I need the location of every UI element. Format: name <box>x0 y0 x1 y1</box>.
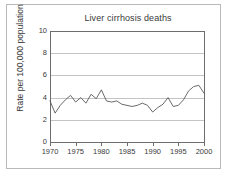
x-tick-mark <box>50 143 51 146</box>
y-tick-label: 6 <box>35 71 47 79</box>
data-series-plot <box>50 31 205 143</box>
x-axis-tick-labels: 1970197519801985199019952000 <box>50 147 205 159</box>
x-tick-mark <box>178 143 179 146</box>
plot-area <box>50 31 205 143</box>
y-tick-label: 2 <box>35 116 47 124</box>
x-tick-label: 2000 <box>191 147 217 156</box>
y-axis-tick-labels: 0246810 <box>33 31 47 143</box>
y-tick-label: 0 <box>35 138 47 146</box>
chart-title: Liver cirrhosis deaths <box>50 13 206 23</box>
x-tick-label: 1995 <box>165 147 191 156</box>
x-tick-label: 1980 <box>88 147 114 156</box>
x-tick-mark <box>76 143 77 146</box>
y-tick-label: 4 <box>35 94 47 102</box>
x-tick-mark <box>127 143 128 146</box>
y-axis-label: Rate per 100,000 population <box>15 0 25 118</box>
y-tick-label: 8 <box>35 49 47 57</box>
x-tick-mark <box>101 143 102 146</box>
data-line-liver-cirrhosis-death-rate <box>50 85 204 113</box>
x-tick-label: 1975 <box>63 147 89 156</box>
y-tick-label: 10 <box>35 27 47 35</box>
x-tick-label: 1990 <box>140 147 166 156</box>
x-tick-label: 1970 <box>37 147 63 156</box>
x-tick-mark <box>153 143 154 146</box>
x-tick-label: 1985 <box>114 147 140 156</box>
chart-root: Liver cirrhosis deaths Rate per 100,000 … <box>0 0 234 177</box>
x-tick-mark <box>204 143 205 146</box>
